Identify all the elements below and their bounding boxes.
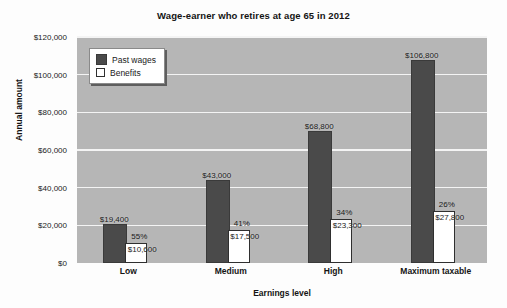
x-axis-tick-label: High <box>324 266 343 276</box>
chart-legend: Past wages Benefits <box>89 48 165 84</box>
legend-label-past-wages: Past wages <box>112 55 156 65</box>
percent-label-benefits: 55% <box>131 232 147 241</box>
y-axis-tick-label: $60,000 <box>38 146 67 155</box>
gridline <box>77 36 487 38</box>
percent-label-benefits: 34% <box>336 208 352 217</box>
y-axis-tick-label: $100,000 <box>34 70 67 79</box>
data-label-benefits: $23,300 <box>333 221 362 230</box>
x-axis-title: Earnings level <box>77 288 487 298</box>
y-axis-tick-label: $20,000 <box>38 221 67 230</box>
y-axis-tick-label: $40,000 <box>38 183 67 192</box>
x-axis-tick-labels: LowMediumHighMaximum taxable <box>77 266 487 282</box>
y-axis-tick-label: $80,000 <box>38 108 67 117</box>
x-axis-tick-label: Medium <box>215 266 247 276</box>
data-label-past-wages: $106,800 <box>405 51 438 60</box>
data-label-past-wages: $68,800 <box>305 122 334 131</box>
y-axis-tick-label: $0 <box>58 259 67 268</box>
y-axis-tick-label: $120,000 <box>34 33 67 42</box>
bar-past-wages <box>206 180 230 263</box>
bar-chart: Wage-earner who retires at age 65 in 201… <box>0 0 507 308</box>
percent-label-benefits: 41% <box>234 219 250 228</box>
legend-swatch-benefits <box>96 68 105 77</box>
y-axis-tick-labels: $0$20,000$40,000$60,000$80,000$100,000$1… <box>0 37 72 263</box>
x-axis-tick-label: Low <box>120 266 137 276</box>
x-axis-tick-label: Maximum taxable <box>400 266 471 276</box>
chart-title: Wage-earner who retires at age 65 in 201… <box>0 10 507 21</box>
data-label-benefits: $10,600 <box>128 245 157 254</box>
data-label-benefits: $17,500 <box>230 232 259 241</box>
legend-label-benefits: Benefits <box>110 68 141 78</box>
data-label-past-wages: $19,400 <box>100 215 129 224</box>
bar-past-wages <box>308 131 332 263</box>
legend-swatch-past-wages <box>96 54 107 65</box>
data-label-past-wages: $43,000 <box>202 171 231 180</box>
legend-item-past-wages: Past wages <box>96 53 156 66</box>
percent-label-benefits: 26% <box>439 200 455 209</box>
legend-item-benefits: Benefits <box>96 66 156 79</box>
bar-past-wages <box>411 60 435 263</box>
bar-past-wages <box>103 224 127 263</box>
data-label-benefits: $27,800 <box>435 213 464 222</box>
